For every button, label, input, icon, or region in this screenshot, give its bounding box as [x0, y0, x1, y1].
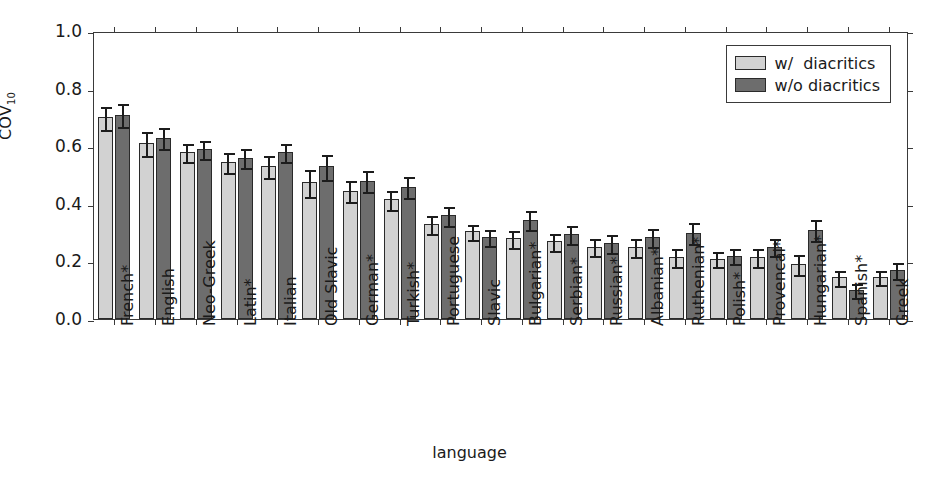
bar-with-diacritics [547, 241, 562, 319]
bar-group [465, 33, 497, 319]
error-bar-cap-top [427, 216, 438, 218]
x-tick-mark [155, 319, 156, 325]
chart-legend: w/ diacritics w/o diacritics [726, 45, 891, 103]
error-bar-cap-top [281, 144, 292, 146]
error-bar-cap-bottom [427, 234, 438, 236]
error-bar-cap-bottom [118, 127, 129, 129]
error-bar-cap-bottom [550, 251, 561, 253]
x-tick-mark [726, 319, 727, 325]
error-bar [757, 249, 759, 269]
error-bar-cap-bottom [281, 162, 292, 164]
error-bar-cap-top [200, 141, 211, 143]
y-tick-mark [88, 148, 94, 149]
error-bar-cap-bottom [567, 244, 578, 246]
error-bar [652, 229, 654, 249]
error-bar [122, 104, 124, 128]
error-bar [366, 171, 368, 194]
x-tick-label: Ruthenian* [691, 237, 707, 326]
legend-item-with-diacritics: w/ diacritics [735, 52, 880, 74]
x-tick-mark [114, 319, 115, 325]
error-bar-cap-bottom [607, 253, 618, 255]
error-bar-cap-top [607, 235, 618, 237]
error-bar-cap-top [893, 263, 904, 265]
y-axis-label-main: COV [0, 105, 15, 140]
error-bar-cap-top [567, 226, 578, 228]
error-bar-cap-bottom [631, 257, 642, 259]
error-bar-cap-top [387, 191, 398, 193]
x-tick-mark [563, 319, 564, 325]
error-bar [733, 249, 735, 266]
error-bar-cap-top [648, 229, 659, 231]
error-bar [635, 239, 637, 259]
error-bar-cap-top [590, 239, 601, 241]
bar-with-diacritics [465, 231, 480, 319]
error-bar-cap-top [672, 249, 683, 251]
error-bar-cap-bottom [485, 246, 496, 248]
legend-label-with-diacritics: w/ diacritics [775, 54, 876, 73]
error-bar [529, 211, 531, 232]
x-tick-label: Old Slavic [324, 247, 340, 326]
bar-group [221, 33, 253, 319]
y-tick-mark-right [907, 91, 913, 92]
x-tick-mark [196, 319, 197, 325]
x-tick-mark [481, 319, 482, 325]
x-tick-mark [277, 319, 278, 325]
error-bar-cap-top [485, 230, 496, 232]
bar-with-diacritics [98, 117, 113, 319]
error-bar-cap-bottom [142, 156, 153, 158]
error-bar [326, 155, 328, 182]
x-tick-label: Spanish* [854, 255, 870, 326]
error-bar [594, 239, 596, 258]
bar-with-diacritics [180, 152, 195, 319]
error-bar [186, 144, 188, 164]
error-bar [390, 191, 392, 213]
error-bar-cap-top [509, 231, 520, 233]
error-bar-cap-bottom [387, 210, 398, 212]
bar-with-diacritics [139, 143, 154, 319]
error-bar-cap-top [346, 181, 357, 183]
chart-figure: COV10 0.00.20.40.60.81.0 w/ diacritics w… [0, 0, 939, 477]
x-tick-mark [644, 319, 645, 325]
error-bar [146, 132, 148, 158]
bar-with-diacritics [384, 199, 399, 319]
error-bar-cap-bottom [322, 180, 333, 182]
y-tick-mark-right [907, 206, 913, 207]
error-bar-cap-bottom [183, 162, 194, 164]
error-bar [431, 216, 433, 236]
error-bar-cap-bottom [264, 178, 275, 180]
error-bar-cap-top [689, 223, 700, 225]
x-tick-label: Russian* [609, 256, 625, 326]
error-bar-cap-top [322, 155, 333, 157]
x-tick-label: Slavic [487, 279, 503, 326]
error-bar [105, 107, 107, 132]
x-tick-label: Bulgarian* [528, 242, 544, 327]
error-bar-cap-bottom [753, 267, 764, 269]
y-axis-label: COV10 [0, 92, 17, 140]
error-bar-cap-bottom [159, 149, 170, 151]
error-bar [407, 177, 409, 200]
error-bar [203, 141, 205, 161]
error-bar [570, 226, 572, 246]
x-tick-label: Polish* [732, 272, 748, 326]
x-tick-label: French* [120, 265, 136, 326]
error-bar-cap-top [794, 255, 805, 257]
x-tick-label: Latin* [243, 278, 259, 326]
x-tick-label: Italian [283, 276, 299, 326]
error-bar-cap-top [224, 153, 235, 155]
x-tick-mark [766, 319, 767, 325]
x-tick-label: Greek [895, 278, 911, 326]
error-bar-cap-bottom [590, 256, 601, 258]
error-bar-cap-top [142, 132, 153, 134]
error-bar-cap-top [444, 207, 455, 209]
x-tick-label: Neo-Greek [202, 240, 218, 326]
error-bar [611, 235, 613, 255]
x-tick-mark [440, 319, 441, 325]
bar-with-diacritics [343, 191, 358, 319]
error-bar-cap-bottom [730, 264, 741, 266]
error-bar-cap-top [305, 170, 316, 172]
x-tick-mark [603, 319, 604, 325]
error-bar-cap-top [118, 104, 129, 106]
bar-with-diacritics [506, 238, 521, 319]
error-bar [244, 149, 246, 170]
x-tick-mark [889, 319, 890, 325]
